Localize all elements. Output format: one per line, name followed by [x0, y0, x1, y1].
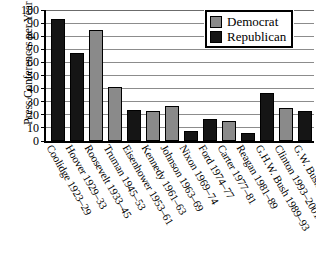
legend-label-democrat: Democrat — [227, 15, 278, 29]
bar-democrat-2 — [89, 30, 103, 141]
y-axis-tick-label: 20 — [27, 109, 39, 121]
y-axis-tick — [41, 88, 46, 89]
bar-republican-4 — [127, 110, 141, 141]
press-conferences-bar-chart: Press Conferences per Year 0102030405060… — [0, 0, 316, 266]
bar-republican-8 — [203, 119, 217, 141]
bar-democrat-3 — [108, 87, 122, 141]
y-axis-tick-label: 0 — [33, 135, 39, 147]
legend-swatch-republican-icon — [210, 31, 222, 43]
y-axis-tick — [41, 114, 46, 115]
y-axis-tick — [41, 36, 46, 37]
y-axis-tick-label: 30 — [27, 95, 39, 107]
y-axis-tick — [41, 10, 46, 11]
bar-republican-13 — [298, 111, 312, 141]
bar-democrat-9 — [222, 121, 236, 141]
y-axis-tick — [41, 23, 46, 24]
bar-democrat-6 — [165, 106, 179, 141]
legend-item-democrat: Democrat — [210, 14, 286, 29]
legend: Democrat Republican — [205, 10, 293, 48]
y-axis-tick — [41, 141, 46, 142]
y-axis-tick — [41, 101, 46, 102]
y-axis-tick-label: 70 — [27, 43, 39, 55]
bar-republican-1 — [70, 53, 84, 141]
legend-item-republican: Republican — [210, 29, 286, 44]
x-axis-labels: Coolidge 1923–29Hoover 1929–33Roosevelt … — [44, 143, 316, 266]
y-axis-tick-label: 10 — [27, 122, 39, 134]
y-axis-tick-label: 40 — [27, 82, 39, 94]
bar-democrat-12 — [279, 108, 293, 141]
bar-republican-0 — [51, 19, 65, 141]
legend-swatch-democrat-icon — [210, 16, 222, 28]
y-axis-tick-label: 100 — [21, 4, 39, 16]
y-axis-tick — [41, 75, 46, 76]
bar-republican-7 — [184, 131, 198, 141]
bar-democrat-5 — [146, 111, 160, 141]
y-axis-tick-label: 90 — [27, 17, 39, 29]
y-axis-tick — [41, 49, 46, 50]
y-axis-tick — [41, 127, 46, 128]
y-axis-tick-label: 80 — [27, 30, 39, 42]
bar-republican-10 — [241, 133, 255, 141]
y-axis-tick — [41, 62, 46, 63]
bar-republican-11 — [260, 93, 274, 141]
y-axis-tick-label: 50 — [27, 69, 39, 81]
legend-label-republican: Republican — [227, 30, 286, 44]
y-axis-tick-label: 60 — [27, 56, 39, 68]
